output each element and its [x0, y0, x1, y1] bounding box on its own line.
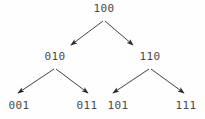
edge-r-rl	[113, 69, 149, 93]
tree-node-100: 100	[93, 3, 114, 15]
tree-node-110: 110	[139, 51, 160, 63]
edge-root-l	[71, 21, 103, 45]
edge-r-rr	[151, 69, 184, 93]
edge-l-ll	[18, 69, 54, 93]
tree-edges-layer	[0, 0, 205, 119]
tree-node-111: 111	[175, 100, 196, 112]
tree-node-011: 011	[76, 100, 97, 112]
tree-node-001: 001	[8, 100, 29, 112]
binary-tree-diagram: 100010110001011101111	[0, 0, 205, 119]
tree-node-010: 010	[44, 51, 65, 63]
edge-root-r	[105, 21, 133, 45]
tree-node-101: 101	[107, 100, 128, 112]
edge-l-lr	[56, 69, 88, 93]
